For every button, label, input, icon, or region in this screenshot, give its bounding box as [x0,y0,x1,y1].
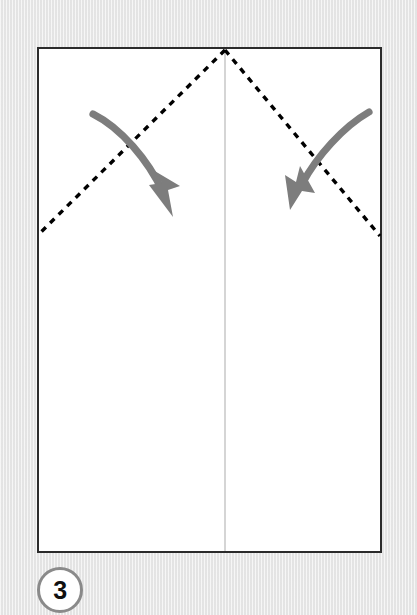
paper-sheet [38,48,381,552]
origami-diagram-canvas [0,0,417,615]
step-number-badge: 3 [37,567,83,613]
step-number-label: 3 [53,578,66,603]
origami-diagram: 3 [0,0,417,615]
